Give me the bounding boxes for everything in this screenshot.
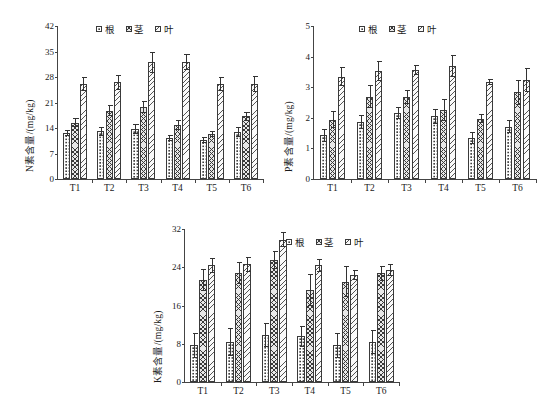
bar-potassium-T6-叶 — [386, 270, 393, 382]
chart-panel-nitrogen: N素含量/(mg/kg) 071421283542T1T2T3T4T5T6 根 … — [0, 0, 273, 203]
error-bar — [194, 333, 195, 358]
legend-item-root: 根 — [96, 22, 115, 36]
plot-area-phosphorus: 012345T1T2T3T4T5T6 — [313, 26, 536, 180]
bar-potassium-T2-茎 — [235, 273, 242, 382]
y-tick-label: 5 — [306, 21, 311, 31]
error-bar — [203, 137, 204, 143]
x-tick-label: T1 — [70, 183, 81, 193]
y-tick-mark — [55, 26, 59, 27]
y-tick-label: 3 — [306, 82, 311, 92]
legend-item-stem: 茎 — [126, 22, 145, 36]
error-bar — [212, 258, 213, 273]
bar-phosphorus-T6-叶 — [523, 80, 531, 179]
error-bar — [143, 101, 144, 113]
y-tick-label: 35 — [45, 47, 54, 57]
error-bar — [509, 120, 510, 133]
error-bar — [101, 127, 102, 136]
error-bar — [415, 65, 416, 74]
x-tick-label: T1 — [327, 183, 338, 193]
error-bar — [361, 115, 362, 130]
error-bar — [381, 266, 382, 280]
error-bar — [407, 90, 408, 104]
bar-potassium-T3-叶 — [279, 240, 286, 382]
legend-swatch-root-icon — [96, 26, 102, 32]
x-tick-label: T4 — [172, 183, 183, 193]
y-tick-label: 1 — [306, 143, 311, 153]
legend-swatch-stem-icon — [316, 239, 322, 245]
bar-nitrogen-T3-根 — [131, 129, 138, 179]
bar-nitrogen-T5-茎 — [208, 134, 215, 179]
error-bar — [452, 55, 453, 76]
error-bar — [109, 105, 110, 115]
x-tick-mark — [161, 179, 162, 183]
legend-swatch-stem-icon — [126, 26, 132, 32]
legend-swatch-leaf-icon — [155, 26, 161, 32]
legend-label-stem: 茎 — [324, 235, 334, 249]
x-tick-mark — [536, 179, 537, 183]
x-tick-label: T5 — [206, 183, 217, 193]
bar-phosphorus-T2-根 — [357, 122, 365, 179]
bar-nitrogen-T4-根 — [166, 138, 173, 179]
chart-panel-phosphorus: P素含量/(mg/kg) 012345T1T2T3T4T5T6 根 茎 叶 — [273, 0, 546, 203]
legend-label-root: 根 — [368, 22, 378, 36]
y-tick-label: 14 — [45, 123, 54, 133]
bar-potassium-T4-叶 — [315, 265, 322, 382]
plot-area-potassium: 08162432T1T2T3T4T5T6 — [184, 229, 399, 383]
x-tick-label: T3 — [138, 183, 149, 193]
legend-item-root: 根 — [359, 22, 378, 36]
y-tick-label: 21 — [45, 98, 54, 108]
x-tick-mark — [328, 382, 329, 386]
error-bar — [324, 129, 325, 142]
bar-nitrogen-T4-茎 — [174, 125, 181, 179]
error-bar — [372, 330, 373, 354]
error-bar — [398, 107, 399, 119]
bar-nitrogen-T2-叶 — [114, 82, 121, 179]
error-bar — [346, 266, 347, 298]
x-tick-mark — [195, 179, 196, 183]
legend-item-leaf: 叶 — [418, 22, 437, 36]
error-bar — [254, 76, 255, 91]
bar-phosphorus-T5-叶 — [486, 82, 494, 179]
y-tick-mark — [311, 179, 315, 180]
legend-swatch-root-icon — [286, 239, 292, 245]
bar-nitrogen-T6-茎 — [242, 116, 249, 179]
legend-nitrogen: 根 茎 叶 — [96, 22, 174, 36]
error-bar — [220, 77, 221, 92]
error-bar — [83, 77, 84, 91]
legend-swatch-stem-icon — [389, 26, 395, 32]
error-bar — [265, 323, 266, 347]
legend-swatch-leaf-icon — [345, 239, 351, 245]
y-tick-mark — [182, 306, 186, 307]
y-tick-label: 0 — [50, 174, 55, 184]
legend-swatch-leaf-icon — [418, 26, 424, 32]
legend-potassium: 根 茎 叶 — [286, 235, 364, 249]
bar-potassium-T1-茎 — [199, 280, 206, 382]
error-bar — [152, 52, 153, 73]
x-tick-label: T4 — [438, 183, 449, 193]
y-tick-mark — [55, 77, 59, 78]
bar-phosphorus-T5-茎 — [477, 119, 485, 179]
bar-phosphorus-T3-叶 — [412, 70, 420, 179]
bar-phosphorus-T6-茎 — [514, 92, 522, 179]
x-tick-mark — [363, 382, 364, 386]
y-tick-label: 7 — [50, 149, 55, 159]
bar-nitrogen-T5-叶 — [217, 84, 224, 179]
legend-label-root: 根 — [295, 235, 305, 249]
y-tick-mark — [311, 87, 315, 88]
error-bar — [333, 111, 334, 128]
y-tick-label: 28 — [45, 72, 54, 82]
x-tick-mark — [263, 179, 264, 183]
y-tick-mark — [55, 103, 59, 104]
legend-item-root: 根 — [286, 235, 305, 249]
error-bar — [67, 130, 68, 137]
x-tick-mark — [399, 382, 400, 386]
y-tick-mark — [311, 118, 315, 119]
legend-item-leaf: 叶 — [155, 22, 174, 36]
legend-item-leaf: 叶 — [345, 235, 364, 249]
x-tick-label: T1 — [198, 386, 209, 396]
x-tick-mark — [292, 382, 293, 386]
bar-potassium-T5-叶 — [350, 275, 357, 382]
y-tick-mark — [182, 267, 186, 268]
y-tick-mark — [55, 128, 59, 129]
error-bar — [283, 232, 284, 246]
